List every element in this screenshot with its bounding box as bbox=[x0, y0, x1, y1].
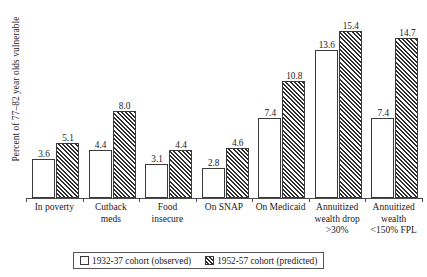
bar-value-label: 14.7 bbox=[392, 28, 422, 39]
bar-observed: 7.4 bbox=[371, 118, 394, 198]
bar-observed: 7.4 bbox=[258, 118, 281, 198]
bar-group: 7.410.8 bbox=[252, 8, 309, 198]
bar-predicted: 15.4 bbox=[339, 31, 362, 198]
bar-value-label: 5.1 bbox=[53, 133, 83, 144]
legend-item: 1932-37 cohort (observed) bbox=[80, 256, 191, 266]
bar-value-label: 3.6 bbox=[29, 149, 59, 160]
bar-chart-figure: Percent of 77–82 year olds vulnerable 3.… bbox=[0, 0, 427, 277]
bar-value-label: 8.0 bbox=[110, 101, 140, 112]
bar-group: 4.48.0 bbox=[83, 8, 140, 198]
y-axis-label-container: Percent of 77–82 year olds vulnerable bbox=[0, 0, 22, 200]
bar-value-label: 15.4 bbox=[336, 21, 366, 32]
plot-area: 3.65.14.48.03.14.42.84.67.410.813.615.47… bbox=[26, 8, 422, 198]
bar-observed: 4.4 bbox=[89, 150, 112, 198]
bar-value-label: 13.6 bbox=[312, 40, 342, 51]
x-axis-category-label: Annuitizedwealth<150% FPL bbox=[359, 202, 427, 237]
bar-value-label: 2.8 bbox=[199, 158, 229, 169]
bar-observed: 2.8 bbox=[202, 168, 225, 198]
bar-predicted: 5.1 bbox=[56, 143, 79, 198]
x-axis-line bbox=[26, 198, 422, 199]
open-square-icon bbox=[80, 256, 89, 265]
category-label-line: wealth bbox=[359, 214, 427, 226]
bar-group: 13.615.4 bbox=[309, 8, 366, 198]
bar-value-label: 7.4 bbox=[368, 108, 398, 119]
category-label-line: <150% FPL bbox=[359, 225, 427, 237]
bar-value-label: 4.6 bbox=[223, 138, 253, 149]
bar-predicted: 4.4 bbox=[169, 150, 192, 198]
bar-value-label: 4.4 bbox=[86, 140, 116, 151]
bar-group: 7.414.7 bbox=[365, 8, 422, 198]
bar-value-label: 10.8 bbox=[279, 71, 309, 82]
bar-value-label: 3.1 bbox=[142, 154, 172, 165]
bar-group: 2.84.6 bbox=[196, 8, 253, 198]
legend-label: 1952-57 cohort (predicted) bbox=[217, 256, 317, 266]
bar-predicted: 4.6 bbox=[226, 148, 249, 198]
category-label-line: insecure bbox=[133, 214, 202, 226]
x-axis-category-labels: In povertyCutbackmedsFoodinsecureOn SNAP… bbox=[26, 202, 422, 248]
bar-predicted: 10.8 bbox=[282, 81, 305, 198]
bar-value-label: 7.4 bbox=[255, 108, 285, 119]
bar-predicted: 14.7 bbox=[395, 38, 418, 198]
bar-value-label: 4.4 bbox=[166, 140, 196, 151]
bar-group: 3.65.1 bbox=[26, 8, 83, 198]
bar-observed: 3.1 bbox=[145, 164, 168, 198]
bar-observed: 13.6 bbox=[315, 50, 338, 198]
bar-observed: 3.6 bbox=[32, 159, 55, 198]
hatched-square-icon bbox=[205, 256, 214, 265]
category-label-line: Annuitized bbox=[359, 202, 427, 214]
y-axis-title: Percent of 77–82 year olds vulnerable bbox=[11, 0, 21, 179]
legend-label: 1932-37 cohort (observed) bbox=[92, 256, 191, 266]
chart-legend: 1932-37 cohort (observed)1952-57 cohort … bbox=[73, 252, 324, 269]
bar-predicted: 8.0 bbox=[113, 111, 136, 198]
legend-item: 1952-57 cohort (predicted) bbox=[205, 256, 317, 266]
bar-group: 3.14.4 bbox=[139, 8, 196, 198]
